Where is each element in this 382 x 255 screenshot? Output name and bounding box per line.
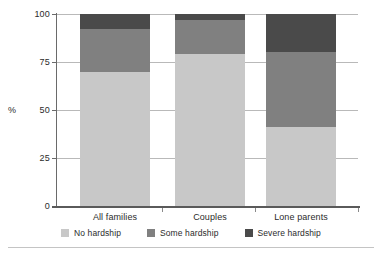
bar-segment-some-hardship xyxy=(266,52,336,127)
x-axis-tick xyxy=(358,208,359,212)
y-axis-line xyxy=(56,13,57,207)
y-axis-tick-label: 100 xyxy=(34,9,50,19)
legend-swatch-icon xyxy=(245,229,253,237)
y-axis-unit-label: % xyxy=(8,105,16,115)
bar-segment-severe-hardship xyxy=(266,14,336,52)
bar-segment-no-hardship xyxy=(266,127,336,206)
bar-lone-parents xyxy=(266,14,336,206)
x-axis-tick xyxy=(162,208,163,212)
legend-swatch-icon xyxy=(61,229,69,237)
legend-label: No hardship xyxy=(74,228,121,238)
bar-all-families xyxy=(80,14,150,206)
x-axis-line xyxy=(52,206,360,208)
bar-segment-no-hardship xyxy=(175,54,245,206)
legend-swatch-icon xyxy=(147,229,155,237)
legend-item: Some hardship xyxy=(147,228,218,238)
bar-segment-no-hardship xyxy=(80,72,150,206)
bar-segment-some-hardship xyxy=(80,29,150,71)
legend-item: Severe hardship xyxy=(245,228,321,238)
y-axis-tick-label: 50 xyxy=(40,105,50,115)
x-axis-tick xyxy=(255,208,256,212)
y-axis-tick-label: 0 xyxy=(45,201,50,211)
legend-label: Some hardship xyxy=(160,228,218,238)
bar-couples xyxy=(175,14,245,206)
plot-area xyxy=(56,14,358,206)
legend-label: Severe hardship xyxy=(258,228,321,238)
legend-item: No hardship xyxy=(61,228,121,238)
footer-divider xyxy=(8,247,374,248)
y-axis-tick-label: 25 xyxy=(40,153,50,163)
stacked-bar-chart-figure: 1007550250% All familiesCouplesLone pare… xyxy=(0,0,382,255)
x-axis-category-label: Lone parents xyxy=(241,212,361,222)
chart-legend: No hardshipSome hardshipSevere hardship xyxy=(0,228,382,238)
y-axis-tick-label: 75 xyxy=(40,57,50,67)
bar-segment-severe-hardship xyxy=(80,14,150,29)
bar-segment-some-hardship xyxy=(175,20,245,55)
